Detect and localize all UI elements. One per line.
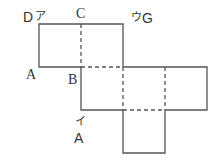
label-d: D [23, 10, 33, 24]
label-b: B [68, 73, 77, 87]
label-g: G [142, 11, 153, 25]
label-a-left: A [26, 68, 36, 82]
label-a-kana: ア [35, 11, 46, 22]
label-i-kana: イ [75, 116, 86, 127]
label-c: C [76, 7, 85, 21]
label-a-bottom: A [74, 131, 83, 145]
label-u-kana: ウ [131, 12, 142, 23]
